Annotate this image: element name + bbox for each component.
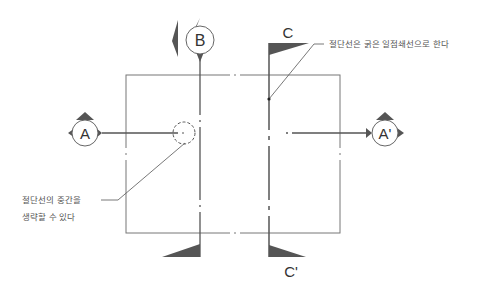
arrow-bottom-left-b-icon [162,244,200,257]
annotation-right: 절단선은 굵은 일점쇄선으로 한다 [329,39,449,49]
label-c: C [283,24,294,41]
arrow-left-icon [172,20,178,57]
section-diagram: B C C' A A' [0,0,495,294]
label-a: A [80,125,90,142]
arrow-top-right-c-icon [269,43,309,55]
section-marker-a: A [68,112,102,146]
arrow-bottom-right-c-icon [269,245,306,257]
annotation-left-line2: 생략할 수 있다 [22,212,75,222]
label-a-prime: A' [379,125,392,142]
arrow-up-a-prime-icon [376,112,394,120]
section-marker-b: B [172,18,214,62]
label-b: B [195,32,206,49]
section-marker-a-prime: A' [366,112,404,146]
left-edge-gaps [126,148,340,160]
object-outline [126,75,340,233]
label-c-prime: C' [284,263,298,280]
arrow-up-a-icon [76,112,94,120]
leader-left [101,143,185,200]
annotation-left-line1: 절단선의 중간을 [22,195,81,205]
vertical-center-line-marks [230,75,240,233]
